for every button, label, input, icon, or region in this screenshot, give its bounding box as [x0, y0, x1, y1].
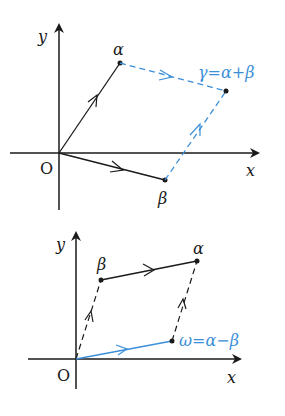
bottom-dashed-omega-to-alpha [172, 261, 197, 341]
top-alpha-label: α [113, 40, 124, 59]
bottom-dashed-origin-to-beta [76, 280, 101, 359]
bottom-omega-label: ω=α−β [179, 331, 239, 350]
bottom-diagram: y β α ω=α−β O x [28, 233, 240, 389]
bottom-omega-point [170, 339, 175, 344]
bottom-x-label: x [227, 368, 236, 387]
bottom-beta-label: β [96, 255, 106, 274]
top-dashed-beta-to-gamma [165, 91, 226, 180]
top-gamma-label: γ=α+β [198, 63, 254, 82]
bottom-beta-to-alpha-vector [101, 261, 197, 280]
bottom-omega-vector [76, 341, 172, 359]
top-alpha-vector [59, 63, 120, 153]
top-x-label: x [246, 161, 255, 180]
top-origin-label: O [40, 159, 53, 178]
top-beta-label: β [157, 189, 167, 208]
top-diagram: y α γ=α+β O x β [10, 25, 258, 210]
bottom-origin-label: O [57, 366, 70, 385]
top-dashed-arrow1-icon [159, 70, 172, 80]
top-gamma-point [224, 89, 229, 94]
top-beta-vector [59, 153, 165, 180]
top-y-label: y [37, 27, 48, 46]
bottom-y-label: y [55, 235, 66, 254]
bottom-alpha-label: α [193, 239, 204, 258]
top-alpha-arrow-icon [88, 95, 97, 107]
vector-diagrams: y α γ=α+β O x β y β α ω=α−β O x [0, 0, 285, 416]
